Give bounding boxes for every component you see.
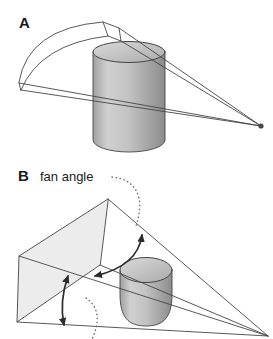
- source-point: [258, 123, 263, 128]
- cylinder-a: [93, 42, 165, 153]
- fan-angle-annotation: fan angle: [40, 170, 94, 183]
- panel-b-label: B: [18, 168, 29, 183]
- panel-a-label: A: [19, 15, 30, 30]
- panel-b: [17, 177, 268, 339]
- leader-to-vertical-arrow: [86, 298, 97, 339]
- panel-a: [19, 22, 264, 152]
- figure-fan-beam-geometry: A B fan angle: [0, 0, 273, 339]
- leader-to-horizontal-arrow: [112, 177, 140, 226]
